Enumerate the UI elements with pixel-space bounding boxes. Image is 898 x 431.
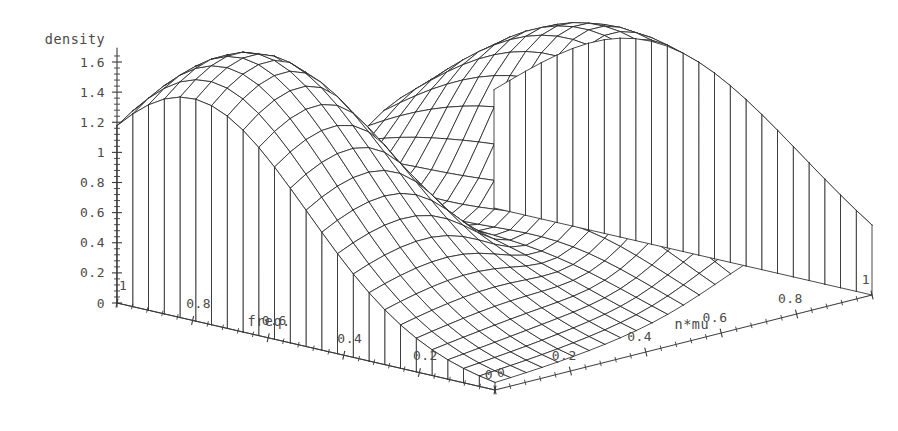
x-axis-tick-label: 0.8 [186, 296, 211, 311]
y-axis-tick-label: 0 [485, 367, 493, 382]
mesh-cell [715, 73, 731, 262]
z-axis-tick-label: 1.4 [80, 85, 105, 100]
mesh-cell [683, 53, 699, 255]
mesh-edge [573, 23, 589, 24]
mesh-cell [243, 130, 259, 335]
mesh-cell [196, 99, 212, 324]
z-axis-title: density [45, 31, 105, 47]
mesh-cell [793, 146, 809, 280]
mesh-cell [526, 63, 542, 219]
z-axis-tick-label: 1 [97, 145, 105, 160]
z-axis-tick-label: 1.2 [80, 115, 105, 130]
mesh-cell [730, 86, 746, 266]
y-axis-tick-label: 0.8 [778, 291, 803, 306]
surface-plot-figure: 1.61.41.210.80.60.40.20density10.80.60.4… [0, 0, 898, 431]
mesh-cell [573, 43, 589, 230]
mesh-cell [667, 46, 683, 251]
mesh-cell [290, 188, 306, 346]
z-axis-tick-label: 0.2 [80, 265, 105, 280]
z-axis-tick-label: 0 [97, 296, 105, 311]
x-axis-tick-label: 1 [119, 278, 127, 293]
mesh-cell [557, 48, 573, 226]
mesh-cell [620, 38, 636, 240]
z-axis-tick-label: 0.6 [80, 205, 105, 220]
mesh-cell [841, 195, 857, 291]
mesh-cell [180, 97, 196, 321]
mesh-cell [778, 130, 794, 277]
y-axis-tick-label: 1 [862, 272, 870, 287]
y-axis-title: n*mu [675, 316, 710, 332]
mesh-cell [746, 100, 762, 270]
mesh-cell [227, 116, 243, 332]
z-axis-tick-label: 0.4 [80, 235, 105, 250]
mesh-cell [494, 80, 510, 211]
x-axis-tick-label: 0.2 [413, 348, 438, 363]
x-axis-title: freq. [248, 313, 291, 329]
mesh-cell [589, 40, 605, 234]
x-axis-tick-label: 0 [497, 365, 505, 380]
mesh-cell [604, 38, 620, 237]
mesh-cell [636, 39, 652, 245]
mesh-cell [825, 179, 841, 288]
surface-plot-canvas: 1.61.41.210.80.60.40.20density10.80.60.4… [0, 0, 898, 431]
z-axis-tick-label: 1.6 [80, 55, 105, 70]
mesh-cell [133, 105, 149, 310]
mesh-cell [652, 41, 668, 248]
y-axis-tick-label: 0.2 [552, 348, 577, 363]
mesh-cell [699, 62, 715, 259]
mesh-cell [259, 147, 275, 339]
z-axis-tick-label: 0.8 [80, 175, 105, 190]
mesh-cell [164, 97, 180, 317]
mesh-cell [541, 55, 557, 223]
mesh-cell [510, 71, 526, 215]
mesh-cell [762, 115, 778, 274]
y-axis-tick-label: 0.4 [627, 329, 652, 344]
mesh-cell [149, 99, 165, 314]
mesh-cell [212, 106, 228, 329]
mesh-cell [306, 210, 322, 350]
mesh-edge [416, 137, 432, 138]
x-axis-tick-label: 0.4 [337, 331, 362, 346]
mesh-cell [809, 163, 825, 284]
